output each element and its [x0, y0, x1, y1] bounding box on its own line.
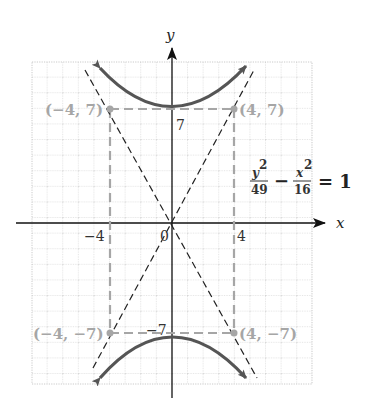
tick-x-4: 4 [237, 228, 246, 244]
y-axis-label: y [165, 26, 175, 44]
tick-x-neg4: −4 [84, 228, 105, 244]
tick-y-7: 7 [176, 117, 185, 133]
point-neg4-7 [107, 106, 114, 113]
tick-y-neg7: −7 [146, 322, 167, 338]
x-axis-label: x [336, 214, 345, 232]
label-neg4-neg7: (−4, −7) [33, 325, 104, 343]
point-neg4-neg7 [107, 330, 114, 337]
point-4-neg7 [231, 330, 238, 337]
hyperbola-chart: x y (−4, 7) (4, 7) (−4, −7) (4, −7) 7 −7… [0, 0, 369, 408]
label-neg4-7: (−4, 7) [45, 101, 103, 119]
svg-text:2: 2 [304, 158, 312, 172]
svg-text:= 1: = 1 [318, 171, 352, 192]
svg-text:2: 2 [259, 158, 267, 172]
svg-text:x: x [295, 166, 304, 180]
svg-text:49: 49 [251, 183, 268, 197]
tick-origin: 0 [160, 228, 169, 244]
svg-text:16: 16 [294, 183, 311, 197]
label-4-neg7: (4, −7) [239, 325, 297, 343]
label-4-7: (4, 7) [239, 101, 285, 119]
svg-text:−: − [274, 170, 289, 191]
point-4-7 [231, 106, 238, 113]
